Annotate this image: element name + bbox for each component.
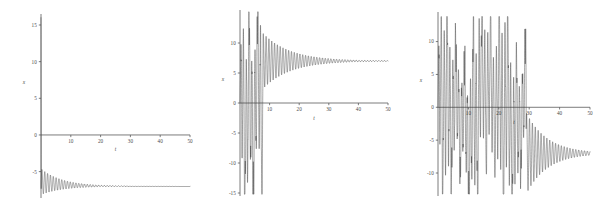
- data-curve: [438, 17, 590, 194]
- x-tick-label: 10: [68, 138, 74, 144]
- y-tick-label: -5: [429, 137, 434, 143]
- y-tick-label: 10: [32, 59, 38, 65]
- y-tick-label: -5: [32, 169, 37, 175]
- figure-container: 1020304050-5051015tx 1020304050-15-10-50…: [0, 0, 600, 206]
- x-tick-label: 20: [297, 106, 303, 112]
- y-tick-label: 10: [429, 38, 435, 44]
- x-tick-label: 50: [587, 110, 593, 116]
- plot-svg-1: 1020304050-5051015tx: [0, 0, 200, 206]
- y-tick-label: -10: [427, 170, 434, 176]
- plot-panel-2: 1020304050-15-10-50510tx: [200, 0, 400, 206]
- plot-svg-2: 1020304050-15-10-50510tx: [200, 0, 400, 206]
- y-tick-label: -15: [229, 190, 236, 196]
- y-tick-label: 10: [231, 40, 237, 46]
- y-axis-title: x: [419, 77, 423, 83]
- y-tick-label: 0: [431, 104, 434, 110]
- y-tick-label: -5: [231, 130, 236, 136]
- x-tick-label: 40: [356, 106, 362, 112]
- y-tick-label: 5: [431, 71, 434, 77]
- y-tick-label: 0: [34, 132, 37, 138]
- y-tick-label: 5: [34, 95, 37, 101]
- plot-panel-3: 1020304050-10-50510tx: [400, 0, 600, 206]
- y-tick-label: -10: [229, 160, 236, 166]
- x-tick-label: 20: [98, 138, 104, 144]
- x-tick-label: 30: [326, 106, 332, 112]
- x-tick-label: 50: [187, 138, 193, 144]
- data-curve: [41, 18, 190, 194]
- y-axis-title: x: [22, 79, 26, 85]
- x-tick-label: 40: [158, 138, 164, 144]
- x-tick-label: 40: [557, 110, 563, 116]
- y-tick-label: 0: [233, 100, 236, 106]
- y-tick-label: 5: [233, 70, 236, 76]
- y-tick-label: 15: [32, 22, 38, 28]
- x-tick-label: 30: [527, 110, 533, 116]
- x-tick-label: 10: [267, 106, 273, 112]
- plot-panel-1: 1020304050-5051015tx: [0, 0, 200, 206]
- x-axis-title: t: [313, 115, 315, 121]
- x-tick-label: 30: [128, 138, 134, 144]
- x-axis-title: t: [115, 146, 117, 152]
- plot-svg-3: 1020304050-10-50510tx: [400, 0, 600, 206]
- x-tick-label: 50: [385, 106, 391, 112]
- y-axis-title: x: [221, 76, 225, 82]
